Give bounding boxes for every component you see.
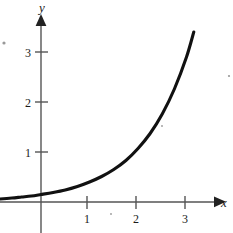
x-tick-label-3: 3 bbox=[182, 212, 188, 226]
x-tick-label-2: 2 bbox=[133, 212, 139, 226]
y-tick-label-1: 1 bbox=[25, 146, 31, 160]
exponential-function-graph: 1 2 3 1 2 3 x y bbox=[0, 0, 233, 233]
y-tick-label-2: 2 bbox=[25, 96, 31, 110]
y-tick-label-3: 3 bbox=[25, 46, 31, 60]
y-axis-label: y bbox=[37, 0, 45, 15]
scan-speck bbox=[110, 213, 112, 215]
x-axis-label: x bbox=[220, 195, 227, 210]
x-tick-label-1: 1 bbox=[84, 212, 90, 226]
figure-background bbox=[0, 0, 233, 233]
scan-speck bbox=[2, 41, 5, 44]
scan-speck bbox=[228, 75, 230, 77]
scan-speck bbox=[161, 125, 163, 127]
